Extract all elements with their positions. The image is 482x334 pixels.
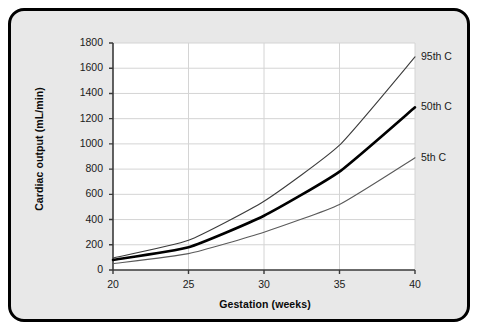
y-tick-label: 200 [61, 238, 103, 250]
x-tick-label: 25 [169, 278, 209, 290]
x-tick-label: 20 [93, 278, 133, 290]
x-tick-label: 35 [320, 278, 360, 290]
y-tick-label: 1800 [61, 36, 103, 48]
series-label-50th-c: 50th C [421, 100, 452, 112]
y-tick-label: 1600 [61, 61, 103, 73]
series-label-95th-c: 95th C [421, 50, 452, 62]
y-tick-label: 1000 [61, 137, 103, 149]
y-tick-label: 800 [61, 162, 103, 174]
y-tick-label: 1400 [61, 86, 103, 98]
y-axis-title: Cardiac output (mL/min) [33, 69, 45, 229]
series-label-5th-c: 5th C [421, 151, 446, 163]
x-tick-label: 40 [395, 278, 435, 290]
cardiac-output-chart: 020040060080010001200140016001800 202530… [11, 11, 470, 322]
x-axis-title: Gestation (weeks) [113, 298, 417, 310]
y-tick-label: 400 [61, 213, 103, 225]
x-tick-label: 30 [244, 278, 284, 290]
figure-frame: 020040060080010001200140016001800 202530… [8, 8, 470, 322]
y-tick-label: 1200 [61, 112, 103, 124]
y-tick-label: 0 [61, 263, 103, 275]
y-tick-label: 600 [61, 187, 103, 199]
